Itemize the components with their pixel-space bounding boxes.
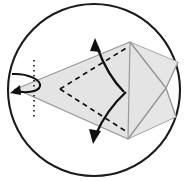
origami-fold-diagram [0,0,192,181]
figure-canvas [0,0,192,181]
